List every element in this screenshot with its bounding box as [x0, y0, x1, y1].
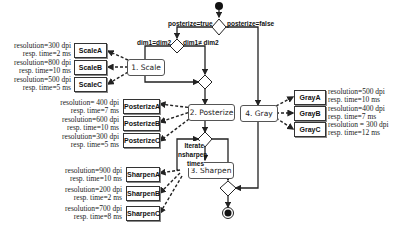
qos-resp-time: resp. time=10 ms [328, 96, 385, 104]
qos-resp-time: resp. time=10 ms [45, 175, 122, 183]
qos-resp-time: resp. time=12 ms [328, 129, 389, 137]
qos-gray-b: resolution=400 dpi resp. time=7 ms [328, 105, 385, 121]
qos-resp-time: resp. time=10 ms [0, 67, 71, 75]
service-scale-a[interactable]: ScaleA [74, 43, 107, 58]
qos-sharpen-c: resolution=700 dpi resp. time=8 ms [45, 205, 122, 221]
qos-posterize-a: resolution= 400 dpi resp. time=7 ms [40, 99, 119, 115]
service-posterize-b[interactable]: PosterizeB [123, 116, 160, 131]
service-posterize-a[interactable]: PosterizeA [123, 99, 160, 114]
loop-label: Iterate nsharpen times [178, 141, 204, 168]
service-sharpen-b[interactable]: SharpenB [126, 186, 160, 201]
merge-scale [198, 75, 212, 89]
qos-gray-a: resolution=500 dpi resp. time=10 ms [328, 88, 385, 104]
qos-resp-time: resp. time=8 ms [45, 213, 122, 221]
merge-final [220, 181, 236, 196]
service-sharpen-c[interactable]: SharpenC [126, 206, 160, 221]
service-gray-a[interactable]: GrayA [294, 90, 326, 105]
qos-resp-time: resp. time=5 ms [0, 84, 71, 92]
qos-posterize-c: resolution=300 dpi resp. time=5 ms [40, 133, 119, 149]
qos-resp-time: resp. time=2 ms [0, 50, 71, 58]
guard-dim-equal: dim1=dim2 [137, 39, 171, 46]
workflow-diagram: posterize=true posterize=false dim1=dim2… [0, 0, 403, 243]
service-posterize-c[interactable]: PosterizeC [123, 133, 160, 148]
qos-resp-time: resp. time=7 ms [40, 107, 119, 115]
loop-label-line2: nsharpen [178, 150, 204, 159]
service-gray-c[interactable]: GrayC [294, 122, 326, 137]
qos-sharpen-a: resolution=900 dpi resp. time=10 ms [45, 167, 122, 183]
decision-posterize [212, 19, 226, 35]
qos-resp-time: resp. time=2 ms [45, 194, 122, 202]
guard-dim-not-equal: dim1≠ dim2 [183, 39, 219, 46]
loop-label-line1: Iterate [178, 141, 204, 150]
service-gray-b[interactable]: GrayB [294, 106, 326, 121]
qos-sharpen-b: resolution=200 dpi resp. time=2 ms [45, 186, 122, 202]
qos-gray-c: resolution = 300 dpi resp. time=12 ms [328, 121, 389, 137]
start-node [215, 2, 223, 10]
decision-dim [170, 39, 184, 53]
guard-posterize-false: posterize=false [227, 20, 274, 27]
activity-scale[interactable]: 1. Scale [127, 59, 165, 76]
qos-posterize-b: resolution=600 dpi resp. time=10 ms [40, 116, 119, 132]
service-scale-b[interactable]: ScaleB [74, 60, 107, 75]
guard-posterize-true: posterize=true [168, 20, 213, 27]
activity-posterize[interactable]: 2. Posterize [188, 104, 235, 121]
activity-gray[interactable]: 4. Gray [240, 105, 278, 122]
service-sharpen-a[interactable]: SharpenA [126, 167, 160, 182]
qos-resp-time: resp. time=10 ms [40, 124, 119, 132]
qos-scale-a: resolution=300 dpi resp. time=2 ms [0, 42, 71, 58]
service-scale-c[interactable]: ScaleC [74, 77, 107, 92]
qos-resp-time: resp. time=5 ms [40, 141, 119, 149]
qos-scale-b: resolution=800 dpi resp. time=10 ms [0, 59, 71, 75]
qos-scale-c: resolution=500 dpi resp. time=5 ms [0, 76, 71, 92]
loop-label-line3: times [178, 159, 204, 168]
